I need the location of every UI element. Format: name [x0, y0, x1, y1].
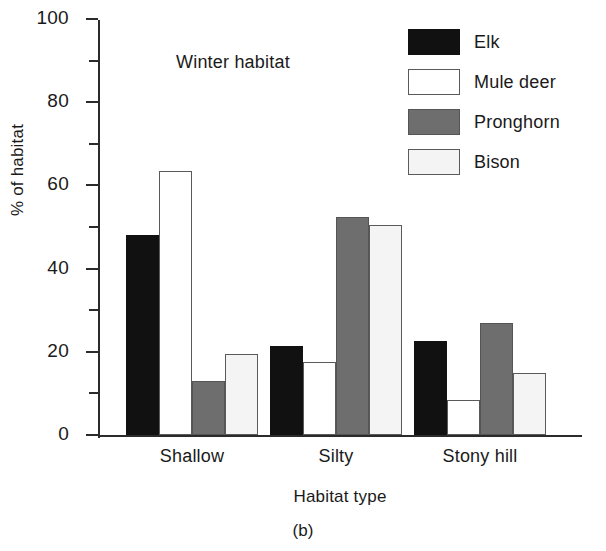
- y-tick-major: 20: [86, 351, 98, 353]
- y-axis-title: % of habitat: [8, 100, 28, 240]
- legend-swatch-icon: [408, 109, 460, 135]
- y-tick-label: 80: [47, 90, 69, 112]
- legend-swatch-icon: [408, 149, 460, 175]
- chart-annotation: Winter habitat: [176, 52, 290, 73]
- y-tick-label: 100: [36, 7, 69, 29]
- bar-elk[interactable]: [414, 341, 447, 435]
- bar-bison[interactable]: [369, 225, 402, 435]
- y-tick-minor: [89, 309, 98, 311]
- x-category-label: Stony hill: [442, 446, 517, 467]
- bar-group: [126, 19, 258, 435]
- bar-mule-deer[interactable]: [447, 400, 480, 435]
- legend-label: Bison: [474, 152, 520, 173]
- y-tick-label: 60: [47, 173, 69, 195]
- bar-elk[interactable]: [270, 346, 303, 435]
- y-tick-minor: [89, 60, 98, 62]
- y-tick-major: 100: [86, 18, 98, 20]
- chart-legend: ElkMule deerPronghornBison: [408, 24, 598, 184]
- bar-mule-deer[interactable]: [303, 362, 336, 435]
- legend-item-pronghorn[interactable]: Pronghorn: [408, 104, 598, 140]
- figure-panel-b: % of habitat 020406080100 ShallowSiltySt…: [0, 0, 606, 551]
- legend-item-mule-deer[interactable]: Mule deer: [408, 64, 598, 100]
- bar-group: [270, 19, 402, 435]
- legend-label: Pronghorn: [474, 112, 560, 133]
- figure-caption: (b): [0, 521, 606, 541]
- legend-swatch-icon: [408, 29, 460, 55]
- legend-item-bison[interactable]: Bison: [408, 144, 598, 180]
- y-tick-minor: [89, 392, 98, 394]
- legend-label: Elk: [474, 32, 500, 53]
- bar-pronghorn[interactable]: [480, 323, 513, 435]
- y-tick-major: 60: [86, 184, 98, 186]
- bar-pronghorn[interactable]: [336, 217, 369, 435]
- x-category-label: Silty: [318, 446, 353, 467]
- y-tick-minor: [89, 226, 98, 228]
- bar-elk[interactable]: [126, 235, 159, 435]
- legend-label: Mule deer: [474, 72, 556, 93]
- legend-swatch-icon: [408, 69, 460, 95]
- y-tick-major: 80: [86, 101, 98, 103]
- y-tick-label: 20: [47, 339, 69, 361]
- bar-mule-deer[interactable]: [159, 171, 192, 435]
- y-tick-major: 40: [86, 268, 98, 270]
- bar-pronghorn[interactable]: [192, 381, 225, 435]
- y-tick-major: 0: [86, 434, 98, 436]
- bar-bison[interactable]: [513, 373, 546, 435]
- bar-bison[interactable]: [225, 354, 258, 435]
- y-axis-line: [98, 20, 100, 438]
- x-axis-title: Habitat type: [98, 487, 582, 507]
- y-tick-minor: [89, 143, 98, 145]
- y-tick-label: 40: [47, 256, 69, 278]
- x-category-label: Shallow: [160, 446, 224, 467]
- x-axis-line: [98, 435, 582, 437]
- y-tick-label: 0: [58, 423, 69, 445]
- legend-item-elk[interactable]: Elk: [408, 24, 598, 60]
